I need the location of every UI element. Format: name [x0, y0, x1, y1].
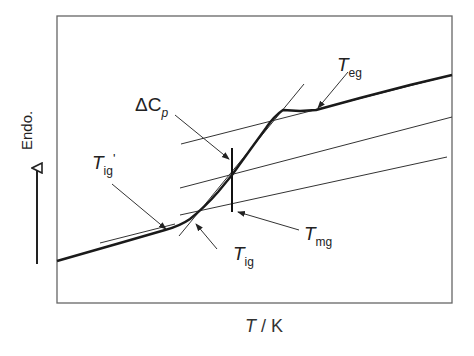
plot-frame	[57, 16, 452, 303]
dsc-curve	[57, 75, 452, 261]
delta-cp-label: ΔCp	[135, 94, 168, 116]
t-ig-arrow	[196, 224, 217, 249]
t-ig-prime-label: Tig'	[92, 152, 115, 174]
t-mg-arrow	[238, 212, 299, 230]
t-mg-label: Tmg	[304, 223, 332, 245]
x-axis-label: T / K	[245, 316, 283, 337]
delta-cp-arrow	[175, 115, 229, 159]
dsc-diagram	[0, 0, 474, 356]
t-ig-label: Tig	[233, 243, 254, 265]
t-ig-prime-arrow	[112, 184, 166, 229]
y-axis-label: Endo.	[18, 111, 35, 150]
t-eg-label: Teg	[337, 54, 362, 76]
